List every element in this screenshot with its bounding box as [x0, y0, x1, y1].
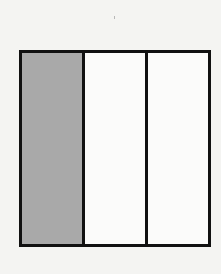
- shaded-part: [22, 53, 82, 244]
- fraction-square: [19, 50, 211, 247]
- scan-speck: [114, 16, 115, 19]
- unshaded-part: [82, 53, 145, 244]
- unshaded-part: [145, 53, 208, 244]
